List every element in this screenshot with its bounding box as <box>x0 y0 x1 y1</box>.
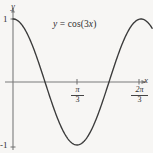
equation-function: cos(3 <box>68 19 89 29</box>
equation-annotation: y = cos(3x) <box>53 20 96 30</box>
figure-cos-3x: y x 1 -1 π 3 2π 3 y = cos(3x) <box>0 0 153 153</box>
fraction-denominator: 3 <box>71 96 84 104</box>
fraction-denominator: 3 <box>131 96 148 104</box>
y-tick-label-one: 1 <box>3 15 8 24</box>
equation-equals: = <box>57 19 67 29</box>
fraction-numerator: 2π <box>131 86 148 94</box>
x-tick-label-two-pi-over-3: 2π 3 <box>131 86 148 105</box>
y-axis-label: y <box>11 2 15 11</box>
equation-close-paren: ) <box>93 19 96 29</box>
x-axis-label: x <box>144 76 148 85</box>
y-tick-label-negative-one: -1 <box>0 141 8 150</box>
x-tick-label-pi-over-3: π 3 <box>71 86 84 105</box>
fraction-numerator: π <box>71 86 84 94</box>
